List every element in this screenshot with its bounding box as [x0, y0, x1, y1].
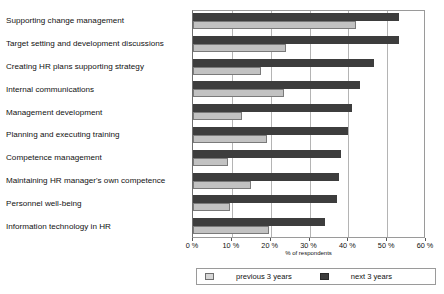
bar-previous-3-years: [193, 135, 267, 143]
legend-swatch-next: [320, 273, 329, 280]
bar-next-3-years: [193, 59, 374, 67]
category-label: Target setting and development discussio…: [6, 39, 186, 48]
bar-next-3-years: [193, 127, 348, 135]
bar-previous-3-years: [193, 21, 356, 29]
bar-next-3-years: [193, 173, 339, 181]
bar-previous-3-years: [193, 44, 286, 52]
x-axis-tick-label: 40 %: [339, 241, 356, 250]
bar-previous-3-years: [193, 226, 269, 234]
bar-next-3-years: [193, 218, 325, 226]
bar-next-3-years: [193, 150, 341, 158]
category-label: Personnel well-being: [6, 199, 186, 208]
category-label: Creating HR plans supporting strategy: [6, 62, 186, 71]
legend-swatch-prev: [205, 273, 214, 280]
bar-next-3-years: [193, 36, 399, 44]
legend-entry[interactable]: next 3 years: [320, 272, 392, 281]
category-label: Information technology in HR: [6, 222, 186, 231]
gridline: [348, 11, 349, 237]
bar-next-3-years: [193, 81, 360, 89]
horizontal-bar-chart: Supporting change managementTarget setti…: [0, 0, 444, 294]
plot-area: [192, 10, 425, 238]
x-axis-tick-label: 0 %: [186, 241, 199, 250]
x-axis-tick-label: 50 %: [378, 241, 395, 250]
legend-entry[interactable]: previous 3 years: [205, 272, 292, 281]
x-axis-title: % of respondents: [192, 250, 425, 256]
category-label: Competence management: [6, 153, 186, 162]
x-axis-tick-label: 10 %: [223, 241, 240, 250]
bar-previous-3-years: [193, 181, 251, 189]
chart-legend: previous 3 yearsnext 3 years: [196, 268, 436, 285]
bar-previous-3-years: [193, 158, 228, 166]
category-label: Maintaining HR manager's own competence: [6, 176, 186, 185]
category-label: Planning and executing training: [6, 130, 186, 139]
bar-previous-3-years: [193, 112, 242, 120]
category-label: Management development: [6, 108, 186, 117]
bar-next-3-years: [193, 13, 399, 21]
x-axis-tick-label: 20 %: [261, 241, 278, 250]
x-axis-tick-label: 60 %: [417, 241, 434, 250]
bar-next-3-years: [193, 104, 352, 112]
category-label: Internal communications: [6, 85, 186, 94]
legend-label: next 3 years: [351, 272, 392, 281]
gridline: [387, 11, 388, 237]
category-axis-labels: Supporting change managementTarget setti…: [6, 10, 186, 238]
legend-label: previous 3 years: [236, 272, 292, 281]
bar-previous-3-years: [193, 67, 261, 75]
bar-previous-3-years: [193, 203, 230, 211]
x-axis-tick-label: 30 %: [300, 241, 317, 250]
bar-next-3-years: [193, 195, 337, 203]
category-label: Supporting change management: [6, 16, 186, 25]
bar-previous-3-years: [193, 89, 284, 97]
